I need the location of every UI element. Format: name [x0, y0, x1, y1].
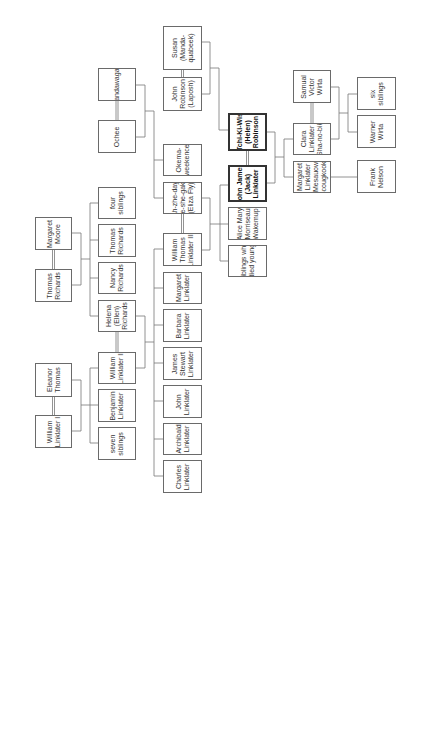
person-william-thomas-linklater-iii: William Thomas Linklater III: [163, 233, 202, 266]
person-label: Susan (Manda- quabeek): [171, 33, 195, 62]
person-charles-linklater: Charles Linklater: [163, 460, 202, 493]
person-james-stewart-linklater: James Stewart Linklater: [163, 347, 202, 380]
person-label: Okema- weekence: [175, 144, 191, 176]
person-label: Frank Nelson: [369, 166, 385, 188]
person-label: Samual Victor Wirta: [300, 75, 324, 99]
person-label: six siblings: [369, 82, 385, 105]
person-label: Margaret Linklater: [175, 274, 191, 302]
person-label: siblings who died young: [240, 245, 256, 277]
person-label: Warner Wirta: [369, 120, 385, 143]
person-label: four siblings: [109, 191, 125, 214]
person-label: William Linklater II: [109, 352, 125, 384]
person-archibald-linklater: Archibald Linklater: [163, 423, 202, 455]
person-ah-zhe-day-ge-she-gake: Ah-zhe-day- ge-she-gake (Eliza Fly): [163, 182, 202, 214]
person-label: Nancy Richards: [109, 264, 125, 292]
person-john-linklater: John Linklater: [163, 385, 202, 418]
siblings-who-died-young: siblings who died young: [228, 245, 267, 277]
person-label: Margaret Moore: [46, 219, 62, 247]
person-sandawagan: Sandawagan: [98, 68, 136, 101]
person-benjamin-linklater: Benjamin Linklater: [98, 389, 136, 422]
person-margaret-linklater: Margaret Linklater: [163, 272, 202, 304]
person-william-linklater-ii: William Linklater II: [98, 352, 136, 384]
person-okema-weekence: Okema- weekence: [163, 144, 202, 176]
person-alice-mary-morriseau-wakemup: Alice Mary Morriseau Wakemup: [228, 207, 267, 240]
person-william-linklater-i: William Linklater I: [35, 415, 72, 448]
person-warner-wirta: Warner Wirta: [357, 115, 396, 148]
family-tree-diagram: Susan (Manda- quabeek) John Robinson (La…: [0, 0, 421, 738]
person-label: Tchi-Ki-Wis (Helen) Robinson: [236, 113, 260, 151]
person-margaret-linklater-mesauow: Margaret Linklater (Mesauow- scougkook): [293, 161, 331, 193]
person-label: William Thomas Linklater III: [171, 233, 195, 266]
person-label: Thomas Richards: [46, 272, 62, 300]
person-thomas-richards-jr: Thomas Richards: [98, 224, 136, 257]
person-samual-victor-wirta: Samual Victor Wirta: [293, 70, 331, 103]
person-barbara-linklater: Barbara Linklater: [163, 309, 202, 342]
person-label: Archibald Linklater: [175, 424, 191, 453]
person-tchi-ki-wis-robinson: Tchi-Ki-Wis (Helen) Robinson: [228, 113, 267, 151]
person-label: John Robinson (Laposh): [171, 79, 195, 109]
four-siblings: four siblings: [98, 187, 136, 219]
person-helena-richards: Helena (Ellen) Richards: [98, 300, 136, 332]
person-label: Helena (Ellen) Richards: [105, 302, 129, 330]
person-label: James Stewart Linklater: [171, 350, 195, 376]
person-label: Eleanor Thomas: [46, 367, 62, 392]
person-label: Ochee: [113, 126, 121, 147]
person-frank-nelson: Frank Nelson: [357, 160, 396, 193]
person-label: seven siblings: [109, 432, 125, 455]
person-margaret-moore: Margaret Moore: [35, 217, 72, 250]
person-label: Thomas Richards: [109, 227, 125, 255]
seven-siblings: seven siblings: [98, 427, 136, 460]
person-label: Charles Linklater: [175, 463, 191, 489]
person-label: Clara Linklater (Sha-no-bik): [300, 123, 324, 155]
person-eleanor-thomas: Eleanor Thomas: [35, 363, 72, 397]
person-clara-linklater: Clara Linklater (Sha-no-bik): [293, 123, 331, 155]
person-nancy-richards: Nancy Richards: [98, 262, 136, 294]
person-john-james-linklater: John James (Jack) Linklater: [228, 165, 267, 202]
person-label: John Linklater: [175, 388, 191, 414]
person-thomas-richards-sr: Thomas Richards: [35, 269, 72, 302]
six-siblings: six siblings: [357, 77, 396, 110]
person-label: William Linklater I: [46, 416, 62, 446]
person-john-robinson: John Robinson (Laposh): [163, 77, 202, 111]
person-label: Margaret Linklater (Mesauow- scougkook): [296, 161, 328, 193]
person-label: Barbara Linklater: [175, 312, 191, 338]
person-label: Sandawagan: [113, 68, 121, 101]
person-susan: Susan (Manda- quabeek): [163, 26, 202, 70]
person-label: Benjamin Linklater: [109, 391, 125, 420]
person-label: Ah-zhe-day- ge-she-gake (Eliza Fly): [171, 182, 195, 214]
person-label: Alice Mary Morriseau Wakemup: [236, 207, 260, 240]
person-label: John James (Jack) Linklater: [236, 165, 260, 202]
person-ochee: Ochee: [98, 120, 136, 153]
